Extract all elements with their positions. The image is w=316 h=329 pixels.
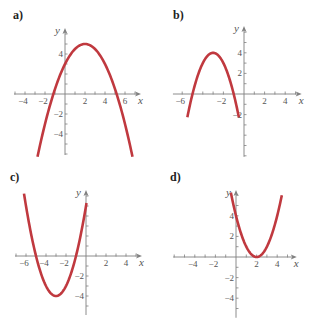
y-tick-label: 4 [59, 49, 64, 59]
x-tick-label: −4 [188, 259, 198, 269]
y-tick-label: −2 [224, 273, 234, 283]
y-tick-label: 2 [238, 68, 243, 78]
graph-c: −6−4−224−2−4xy [15, 186, 144, 315]
y-tick-label: −2 [74, 271, 84, 281]
x-tick-label: −6 [19, 258, 29, 268]
x-tick-label: −2 [38, 96, 48, 106]
graph-d: −4−22442−2−4xy [173, 186, 299, 318]
x-tick-label: 2 [83, 96, 88, 106]
y-axis-label: y [233, 22, 239, 34]
x-axis-label: x [298, 94, 304, 106]
y-tick-label: 2 [230, 231, 235, 241]
y-axis-label: y [225, 186, 231, 198]
x-tick-label: 4 [283, 96, 288, 106]
y-tick-label: 4 [230, 211, 235, 221]
x-tick-label: −4 [39, 258, 49, 268]
x-tick-label: −2 [209, 259, 219, 269]
x-tick-label: −4 [18, 96, 28, 106]
graph-a: −4−22464−2−4xy [14, 24, 143, 157]
parabola-curve [187, 53, 239, 117]
parabola-graphs: −4−22464−2−4xy −6−22442−2xy −6−4−224−2−4… [0, 0, 316, 329]
x-axis-label: x [293, 257, 299, 269]
y-axis-label: y [75, 186, 81, 198]
x-tick-label: 4 [275, 259, 280, 269]
x-axis-label: x [138, 256, 144, 268]
y-tick-label: −4 [53, 129, 63, 139]
x-tick-label: 2 [262, 96, 267, 106]
x-tick-label: 2 [104, 258, 109, 268]
y-tick-label: −4 [74, 291, 84, 301]
y-tick-label: 4 [238, 48, 243, 58]
x-tick-label: 2 [254, 259, 259, 269]
x-tick-label: 4 [103, 96, 108, 106]
x-tick-label: −2 [59, 258, 69, 268]
x-tick-label: 4 [124, 258, 129, 268]
x-tick-label: −2 [217, 96, 227, 106]
x-tick-label: −6 [175, 96, 185, 106]
y-tick-label: −4 [224, 293, 234, 303]
graph-b: −6−22442−2xy [173, 22, 304, 157]
y-axis-label: y [54, 24, 60, 36]
x-axis-label: x [137, 94, 143, 106]
y-tick-label: −2 [53, 109, 63, 119]
parabola-curve [231, 193, 282, 257]
x-tick-label: 6 [123, 96, 128, 106]
